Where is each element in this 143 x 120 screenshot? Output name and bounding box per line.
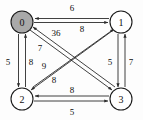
weight-label-bottom-5: 5 [70,107,75,117]
weight-label-left-8: 8 [29,57,34,67]
weight-label-top-8: 8 [80,24,85,34]
edge-group-right [118,34,125,87]
weight-label-top-6: 6 [70,3,75,13]
graph-svg: 0 1 2 3 6 8 5 8 5 7 8 5 36 7 9 8 [0,0,143,120]
edge-group-top [34,19,109,23]
node-3-label: 3 [119,94,124,105]
weight-label-bottom-8: 8 [70,85,75,95]
edge-group-left [19,34,26,87]
weight-label-diagonal-9: 9 [42,61,47,71]
edge-group-diagonal-1-2 [31,29,114,90]
node-1-label: 1 [119,17,124,28]
weight-label-diagonal-7: 7 [38,43,43,53]
weight-label-diagonal-36: 36 [52,28,62,38]
edge-group-bottom [34,96,109,101]
node-0-label: 0 [20,17,25,28]
weight-label-right-5: 5 [108,57,113,67]
edge-2-to-1 [33,29,114,87]
weight-label-diagonal-8: 8 [52,75,57,85]
node-2-label: 2 [20,94,25,105]
weight-label-left-5: 5 [6,57,11,67]
graph-diagram-canvas: 0 1 2 3 6 8 5 8 5 7 8 5 36 7 9 8 [0,0,143,120]
weight-label-right-7: 7 [129,57,134,67]
